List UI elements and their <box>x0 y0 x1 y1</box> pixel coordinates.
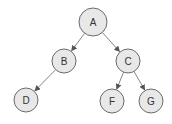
node-label: C <box>124 56 131 67</box>
edge-c-f <box>117 72 124 89</box>
node-g: G <box>139 89 163 113</box>
node-label: B <box>61 56 68 67</box>
node-a: A <box>79 8 107 36</box>
node-label: G <box>147 96 155 107</box>
edge-a-c <box>102 32 119 51</box>
edge-c-g <box>134 71 145 89</box>
node-c: C <box>116 49 140 73</box>
node-label: D <box>22 95 29 106</box>
node-f: F <box>100 89 124 113</box>
node-label: A <box>90 17 97 28</box>
nodes: ABCDFG <box>14 8 163 113</box>
node-b: B <box>52 49 76 73</box>
node-label: F <box>109 96 115 107</box>
edge-a-b <box>72 33 85 50</box>
edge-b-d <box>35 70 56 91</box>
node-d: D <box>14 88 38 112</box>
tree-diagram: ABCDFG <box>0 0 172 124</box>
